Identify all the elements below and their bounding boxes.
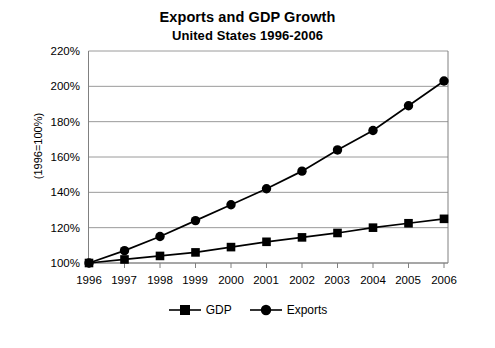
series-gdp <box>85 215 449 268</box>
data-point-marker-circle <box>262 184 271 193</box>
data-point-marker-circle <box>155 232 164 241</box>
data-point-marker-circle <box>333 145 342 154</box>
data-point-marker-square <box>120 255 129 264</box>
data-point-marker-square <box>369 223 378 232</box>
gridlines <box>89 51 449 263</box>
data-point-marker-circle <box>120 246 129 255</box>
data-point-marker-circle <box>368 126 377 135</box>
data-point-marker-circle <box>226 200 235 209</box>
legend-label-gdp: GDP <box>206 304 232 316</box>
legend-item-gdp[interactable]: GDP <box>168 304 232 316</box>
series-line-exports <box>89 81 444 263</box>
plot-area <box>0 0 495 348</box>
data-point-marker-square <box>298 233 307 242</box>
chart-container: Exports and GDP Growth United States 199… <box>0 0 495 348</box>
x-axis-ticks <box>89 263 444 268</box>
data-point-marker-square <box>227 243 236 252</box>
data-point-marker-square <box>156 252 165 261</box>
data-point-marker-circle <box>84 258 93 267</box>
data-point-marker-circle <box>439 76 448 85</box>
data-point-marker-square <box>333 229 342 238</box>
data-point-marker-circle <box>191 216 200 225</box>
legend-label-exports: Exports <box>287 304 328 316</box>
legend-item-exports[interactable]: Exports <box>249 304 328 316</box>
data-point-marker-circle <box>297 166 306 175</box>
data-point-marker-square <box>191 248 200 257</box>
legend-marker-circle-icon <box>249 304 283 316</box>
data-point-marker-square <box>404 219 413 228</box>
series-layer <box>84 76 448 267</box>
chart-legend: GDP Exports <box>0 304 495 316</box>
data-point-marker-square <box>440 215 449 224</box>
data-point-marker-square <box>262 238 271 247</box>
data-point-marker-circle <box>404 101 413 110</box>
legend-marker-square-icon <box>168 304 202 316</box>
